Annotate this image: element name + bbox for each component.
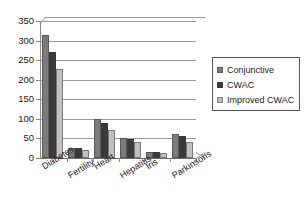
legend-label: Improved CWAC bbox=[227, 95, 294, 105]
legend-item[interactable]: Improved CWAC bbox=[217, 94, 296, 105]
x-category-label: Parkinsons bbox=[170, 148, 213, 180]
x-tick-mark bbox=[119, 158, 120, 162]
legend-swatch-icon bbox=[217, 82, 223, 88]
legend-item[interactable]: CWAC bbox=[217, 79, 296, 90]
legend-label: Conjunctive bbox=[227, 65, 274, 75]
bar-chart: 050100150200250300350 DiabetesFertilityH… bbox=[0, 0, 306, 205]
chart-legend: ConjunctiveCWACImproved CWAC bbox=[212, 57, 300, 111]
legend-label: CWAC bbox=[227, 80, 254, 90]
x-tick-mark bbox=[67, 158, 68, 162]
legend-swatch-icon bbox=[217, 67, 223, 73]
legend-item[interactable]: Conjunctive bbox=[217, 64, 296, 75]
x-category-label: Diabetes bbox=[40, 144, 75, 171]
x-tick-mark bbox=[170, 158, 171, 162]
x-category-label: Heart bbox=[92, 151, 116, 171]
legend-swatch-icon bbox=[217, 97, 223, 103]
x-category-label: Fertility bbox=[66, 157, 96, 181]
